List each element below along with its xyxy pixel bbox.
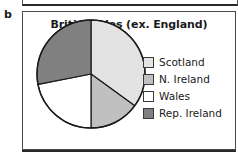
panel-letter-label: b — [4, 9, 12, 20]
legend-swatch-wales — [143, 91, 154, 102]
previous-panel-bottom-edge — [22, 0, 238, 6]
legend-item-n-ireland[interactable]: N. Ireland — [143, 71, 229, 87]
chart-legend: Scotland N. Ireland Wales Rep. Ireland — [143, 54, 229, 122]
pie-slice-rep-ireland[interactable] — [37, 20, 91, 84]
pie-chart — [35, 18, 147, 130]
legend-swatch-n-ireland — [143, 74, 154, 85]
legend-item-rep-ireland[interactable]: Rep. Ireland — [143, 105, 229, 121]
legend-label-wales: Wales — [159, 91, 190, 102]
legend-item-wales[interactable]: Wales — [143, 88, 229, 104]
legend-label-n-ireland: N. Ireland — [159, 74, 210, 85]
legend-item-scotland[interactable]: Scotland — [143, 54, 229, 70]
chart-panel: British Isles (ex. England) Scotland N. … — [22, 11, 236, 150]
legend-swatch-scotland — [143, 57, 154, 68]
legend-label-rep-ireland: Rep. Ireland — [159, 108, 222, 119]
pie-chart-svg — [35, 18, 147, 130]
legend-swatch-rep-ireland — [143, 108, 154, 119]
legend-label-scotland: Scotland — [159, 57, 205, 68]
